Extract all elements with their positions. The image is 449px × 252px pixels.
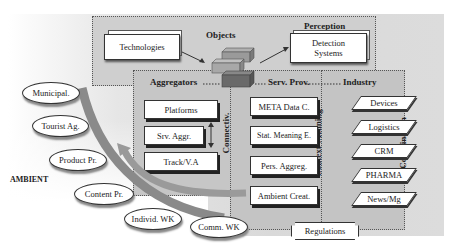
tech-arrow (182, 52, 203, 62)
regulations-label: Regulations (305, 226, 346, 236)
actor-product-pr: Product Pr. (49, 149, 107, 171)
detect-arrowhead-icon (283, 47, 289, 52)
actor-comm-wk: Comm. WK (190, 216, 248, 238)
tourist-ag-label: Tourist Ag. (41, 121, 79, 131)
content-pr-label: Content Pr. (85, 189, 123, 199)
municipal-label: Municipal. (32, 88, 69, 98)
actor-tourist-ag: Tourist Ag. (32, 115, 89, 137)
up-arrowhead-icon (208, 122, 214, 127)
objects-cubes-icon (212, 48, 254, 87)
detect-arrow (260, 49, 286, 63)
regulations-box: Regulations (291, 222, 359, 240)
ambient-label: AMBIENT (10, 175, 48, 184)
comm-wk-label: Comm. WK (198, 222, 239, 232)
actor-content-pr: Content Pr. (74, 183, 134, 205)
product-pr-label: Product Pr. (59, 155, 97, 165)
individ-wk-label: Individ. WK (132, 214, 175, 224)
down-arrowhead-icon (208, 143, 214, 148)
actor-municipal: Municipal. (22, 82, 80, 104)
actor-individ-wk: Individ. WK (124, 208, 182, 230)
